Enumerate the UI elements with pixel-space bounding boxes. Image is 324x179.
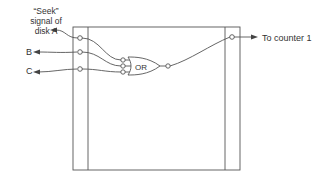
seek-label-line-3: disk A (16, 26, 76, 36)
board-outline (73, 27, 240, 170)
seek-label-line-1: “Seek” (16, 6, 76, 16)
arrow-b-icon (33, 50, 40, 55)
input-label-b: B (26, 47, 32, 57)
gate-input-3 (121, 70, 125, 74)
arrow-c-icon (33, 70, 40, 75)
wire-gate-out (170, 37, 230, 66)
input-terminal-b (78, 50, 83, 55)
gate-input-1 (121, 58, 125, 62)
output-label: To counter 1 (262, 33, 312, 43)
gate-output-bubble (166, 64, 170, 68)
output-terminal (230, 35, 235, 40)
input-terminal-c (78, 67, 83, 72)
wire-c-in (38, 69, 77, 72)
gate-label: OR (135, 63, 147, 72)
input-label-c: C (26, 66, 33, 76)
input-label-seek: “Seek” signal of disk A (16, 6, 76, 36)
seek-label-line-2: signal of (16, 16, 76, 26)
arrow-out-icon (251, 35, 258, 40)
gate-input-2 (121, 64, 125, 68)
input-terminal-seek (78, 36, 83, 41)
